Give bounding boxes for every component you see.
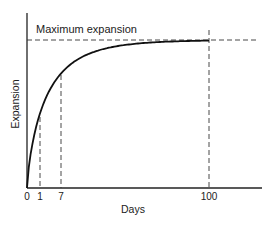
x-tick-label-1: 1 bbox=[37, 191, 43, 202]
x-tick-label-100: 100 bbox=[201, 191, 218, 202]
chart: 017100 Maximum expansion Days Expansion bbox=[0, 0, 275, 228]
x-tick-label-7: 7 bbox=[58, 191, 64, 202]
y-axis-label: Expansion bbox=[9, 79, 21, 128]
x-axis-label: Days bbox=[121, 203, 145, 215]
expansion-curve bbox=[27, 41, 209, 188]
x-tick-label-0: 0 bbox=[24, 191, 30, 202]
max-expansion-annotation: Maximum expansion bbox=[36, 23, 137, 35]
